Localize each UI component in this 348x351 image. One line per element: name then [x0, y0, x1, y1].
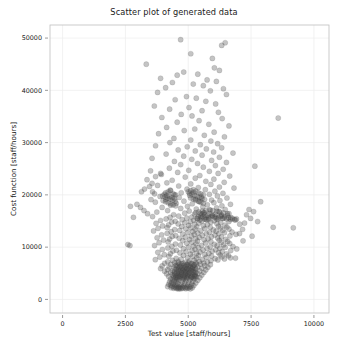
x-axis: 025005000750010000	[61, 315, 325, 328]
x-tick-label: 2500	[117, 320, 133, 328]
y-axis-title: Cost function [staff/hours]	[9, 122, 18, 216]
scatter-plot: 025005000750010000 010000200003000040000…	[0, 0, 348, 351]
x-axis-title: Test value [staff/hours]	[147, 329, 231, 338]
y-tick-label: 10000	[22, 243, 42, 251]
y-tick-label: 40000	[22, 87, 42, 95]
x-tick-label: 10000	[304, 320, 324, 328]
x-tick-label: 5000	[180, 320, 196, 328]
y-tick-label: 0	[38, 296, 42, 304]
y-axis: 01000020000300004000050000	[22, 34, 48, 303]
y-tick-label: 50000	[22, 34, 42, 42]
y-tick-label: 20000	[22, 191, 42, 199]
figure-canvas: Scatter plot of generated data 025005000…	[0, 0, 348, 351]
x-tick-label: 0	[61, 320, 65, 328]
y-tick-label: 30000	[22, 139, 42, 147]
x-tick-label: 7500	[243, 320, 259, 328]
